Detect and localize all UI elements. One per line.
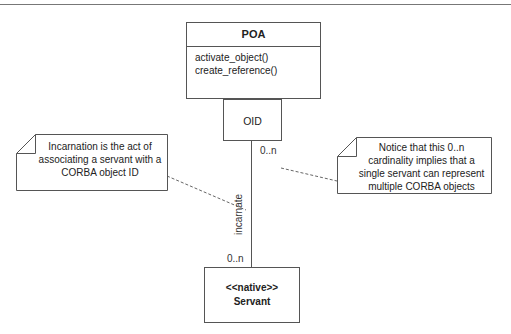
association-label: incarnate bbox=[233, 194, 244, 235]
note2-anchor-line bbox=[281, 168, 337, 181]
note-cardinality: Notice that this 0..n cardinality implie… bbox=[337, 137, 492, 194]
multiplicity-top: 0..n bbox=[260, 145, 277, 156]
oid-qualifier: OID bbox=[223, 99, 282, 141]
servant-stereotype: <<native>> bbox=[205, 281, 299, 295]
note-cardinality-text: Notice that this 0..n cardinality implie… bbox=[337, 141, 492, 193]
note-incarnation: Incarnation is the act of associating a … bbox=[16, 134, 168, 191]
multiplicity-bottom: 0..n bbox=[227, 253, 244, 264]
poa-operations: activate_object() create_reference() bbox=[187, 47, 320, 77]
operation-create-reference: create_reference() bbox=[195, 64, 320, 77]
note-incarnation-text: Incarnation is the act of associating a … bbox=[16, 140, 168, 179]
servant-class-name: Servant bbox=[205, 295, 299, 309]
poa-class-name: POA bbox=[187, 23, 320, 47]
poa-class: POA activate_object() create_reference() bbox=[186, 22, 321, 99]
operation-activate-object: activate_object() bbox=[195, 51, 320, 64]
servant-class: <<native>> Servant bbox=[204, 267, 300, 323]
